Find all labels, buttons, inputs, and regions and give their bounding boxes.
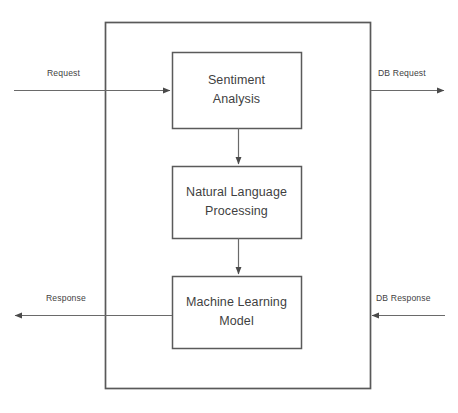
request-label: Request xyxy=(47,68,80,78)
db-request-label: DB Request xyxy=(378,68,426,78)
response-label: Response xyxy=(46,293,86,303)
db-response-label: DB Response xyxy=(376,293,431,303)
diagram-canvas: Sentiment Analysis Natural Language Proc… xyxy=(0,0,458,413)
machine-learning-model-box[interactable] xyxy=(173,277,302,349)
diagram-vector-layer xyxy=(0,0,458,413)
natural-language-processing-box[interactable] xyxy=(173,167,302,239)
sentiment-analysis-box[interactable] xyxy=(173,53,302,129)
